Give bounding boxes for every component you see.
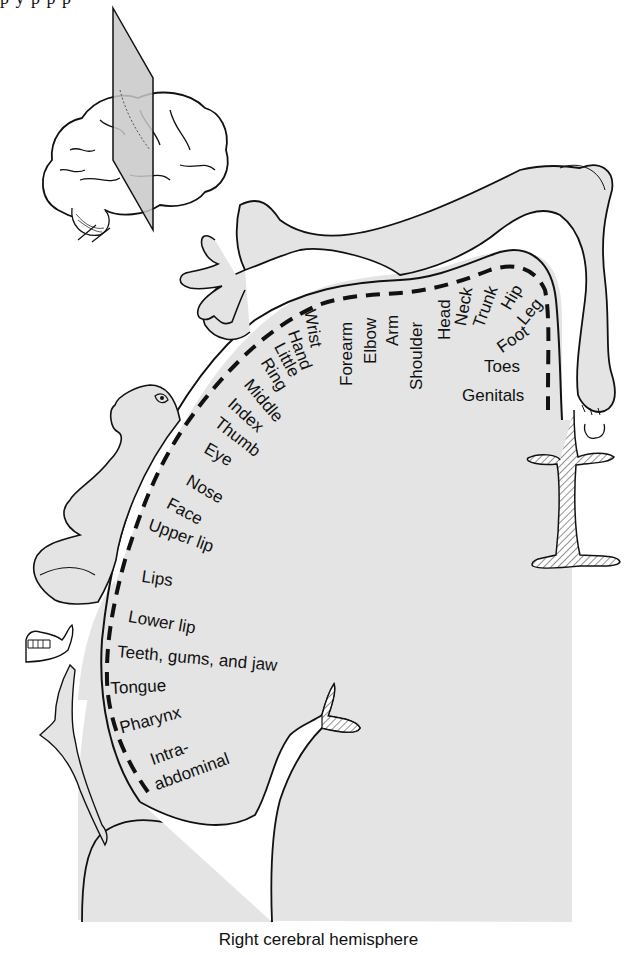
label-lips: Lips (141, 568, 174, 589)
label-arm: Arm (384, 315, 401, 346)
homunculus-figure: p y p p p (0, 0, 637, 955)
diagram-drawing (0, 0, 637, 955)
label-toes: Toes (484, 358, 520, 375)
hand-figure (180, 236, 245, 324)
label-tongue: Tongue (110, 677, 167, 697)
label-forearm: Forearm (338, 322, 355, 386)
inset-brain (43, 8, 228, 242)
figure-caption: Right cerebral hemisphere (0, 930, 637, 950)
label-head: Head (436, 299, 453, 340)
label-elbow: Elbow (362, 318, 379, 364)
label-shoulder: Shoulder (408, 322, 425, 390)
label-genitals: Genitals (462, 387, 524, 404)
jaw-figure (26, 625, 73, 662)
